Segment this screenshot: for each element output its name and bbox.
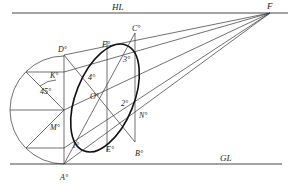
label-d: D° xyxy=(57,45,68,54)
ray-k-f xyxy=(64,13,270,72)
label-vanishing-point: F xyxy=(266,1,273,11)
label-m: M° xyxy=(49,123,61,132)
label-45-angle: 45° xyxy=(40,87,52,96)
label-gl: GL xyxy=(220,153,232,163)
label-1: 1° xyxy=(72,141,80,150)
label-e: E° xyxy=(105,145,115,154)
label-k: K° xyxy=(49,71,59,80)
label-n: N° xyxy=(138,111,148,120)
label-fm: F° xyxy=(101,40,111,49)
label-hl: HL xyxy=(111,2,124,12)
label-c: C° xyxy=(132,24,141,33)
label-a: A° xyxy=(59,173,69,182)
label-3: 3° xyxy=(122,55,131,64)
label-4: 4° xyxy=(88,73,96,82)
ray-a-f xyxy=(64,13,270,164)
label-2: 2° xyxy=(121,99,129,108)
angle-arc xyxy=(40,80,56,86)
label-b: B° xyxy=(135,149,144,158)
perspective-circle-diagram: HL GL F D° C° B° A° F° K° M° N° E° O° 1°… xyxy=(0,0,288,184)
ray-d-f xyxy=(64,13,270,55)
label-o: O° xyxy=(90,92,100,101)
